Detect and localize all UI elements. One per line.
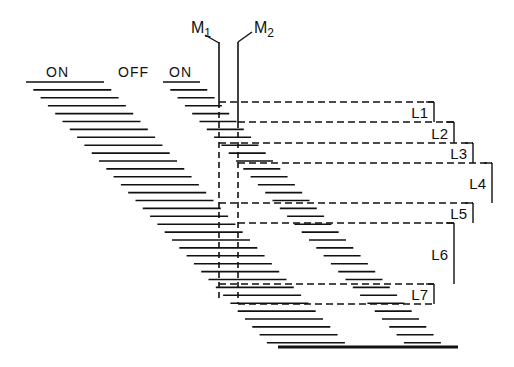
interval-label: L6 <box>431 246 448 263</box>
interval-brackets: L1L2L3L4L5L6L7 <box>219 102 492 304</box>
marker-m2-label: M2 <box>254 19 274 40</box>
interval-label: L2 <box>431 125 448 142</box>
bracket-l5: L5 <box>219 203 473 223</box>
header-on-left: ON <box>46 64 69 80</box>
bracket-l6: L6 <box>238 223 454 284</box>
marker-m1 <box>205 35 219 298</box>
interval-label: L5 <box>450 205 467 222</box>
interval-label: L3 <box>450 145 467 162</box>
bracket-l1: L1 <box>219 102 434 122</box>
header-off: OFF <box>118 64 149 80</box>
interval-label: L7 <box>411 286 428 303</box>
header-on-right: ON <box>169 64 192 80</box>
timing-diagram: L1L2L3L4L5L6L7 ON OFF ON M1 M2 <box>0 0 514 367</box>
interval-label: L1 <box>411 104 428 121</box>
interval-label: L4 <box>469 175 486 192</box>
bracket-l2: L2 <box>238 122 454 143</box>
marker-leader <box>238 32 252 42</box>
marker-m1-label: M1 <box>191 19 211 40</box>
